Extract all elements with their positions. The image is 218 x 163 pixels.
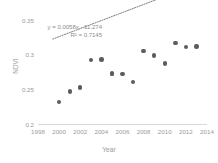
y-axis-title: NDVI — [12, 44, 20, 88]
data-point — [120, 72, 124, 76]
x-axis-tick-label: 2012 — [179, 128, 193, 136]
data-point — [163, 61, 167, 65]
x-axis-tick-label: 2008 — [137, 128, 151, 136]
y-axis-tick-label: 0.25 — [22, 86, 34, 93]
data-point — [68, 89, 72, 93]
x-axis-tick-label: 1998 — [31, 128, 45, 136]
x-axis-tick-labels: 199820002002200420062008201020122014 — [0, 128, 218, 138]
y-axis-tick-label: 0.2 — [25, 121, 34, 128]
x-axis-title: Year — [0, 145, 218, 154]
data-point — [173, 41, 177, 45]
equation-label: y = 0.0058x - 11.274 — [30, 23, 102, 31]
data-point — [194, 44, 198, 48]
data-point — [99, 57, 103, 61]
x-axis-tick-label: 2002 — [73, 128, 87, 136]
data-point — [152, 53, 156, 57]
x-axis-tick-label: 2010 — [158, 128, 172, 136]
x-axis-tick-label: 2006 — [116, 128, 130, 136]
x-axis-tick-label: 2014 — [200, 128, 214, 136]
x-axis-line — [38, 124, 207, 125]
data-point — [110, 71, 114, 75]
ndvi-year-scatter-chart: 0.20.250.30.35 NDVI 19982000200220042006… — [0, 0, 218, 163]
y-axis-tick-label: 0.3 — [25, 51, 34, 58]
x-axis-tick-label: 2000 — [52, 128, 66, 136]
regression-annotation: y = 0.0058x - 11.274 R² = 0.7145 — [30, 23, 102, 39]
x-axis-tick-label: 2004 — [94, 128, 108, 136]
r-squared-label: R² = 0.7145 — [30, 31, 102, 39]
